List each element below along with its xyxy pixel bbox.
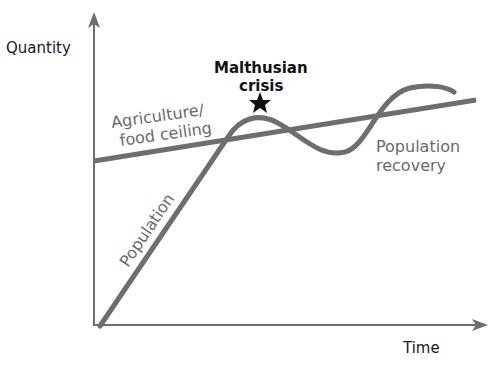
crisis-label-line2: crisis <box>239 77 284 95</box>
recovery-label-line2: recovery <box>376 156 446 175</box>
malthusian-diagram: Quantity Time Malthusian crisis Agricult… <box>0 0 501 366</box>
star-icon <box>249 92 271 113</box>
x-axis <box>94 319 488 331</box>
x-axis-label: Time <box>402 339 440 357</box>
y-axis-label: Quantity <box>6 39 71 57</box>
crisis-label-line1: Malthusian <box>214 59 308 77</box>
recovery-label-line1: Population <box>376 137 460 156</box>
y-axis <box>88 12 100 326</box>
